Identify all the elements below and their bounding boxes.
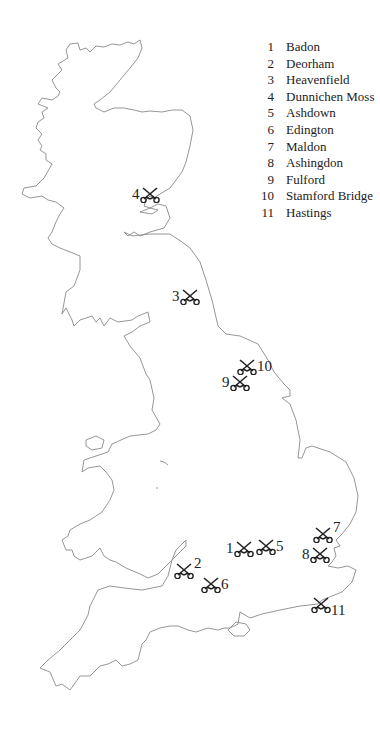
anglesey bbox=[86, 436, 104, 450]
legend-item: 2Deorham bbox=[252, 56, 374, 73]
legend-item: 4Dunnichen Moss bbox=[252, 89, 374, 106]
legend-item: 9Fulford bbox=[252, 172, 374, 189]
legend-item: 8Ashingdon bbox=[252, 155, 374, 172]
crossed-swords-icon bbox=[201, 577, 221, 593]
legend-item: 11Hastings bbox=[252, 205, 374, 222]
battle-marker-ashingdon: 8 bbox=[302, 546, 330, 563]
crossed-swords-icon bbox=[230, 375, 250, 391]
crossed-swords-icon bbox=[180, 289, 200, 305]
battle-marker-edington: 6 bbox=[201, 576, 229, 593]
legend-item: 3Heavenfield bbox=[252, 72, 374, 89]
crossed-swords-icon bbox=[174, 563, 194, 579]
isle-of-wight bbox=[228, 622, 250, 636]
battle-marker-maldon: 7 bbox=[313, 526, 341, 543]
crossed-swords-icon bbox=[140, 187, 160, 203]
crossed-swords-icon bbox=[310, 547, 330, 563]
battle-marker-dunnichen-moss: 4 bbox=[132, 186, 160, 203]
battle-marker-hastings: 11 bbox=[311, 596, 345, 613]
legend-item: 5Ashdown bbox=[252, 105, 374, 122]
legend-item: 7Maldon bbox=[252, 139, 374, 156]
legend-item: 6Edington bbox=[252, 122, 374, 139]
crossed-swords-icon bbox=[313, 527, 333, 543]
crossed-swords-icon bbox=[234, 541, 254, 557]
battle-marker-badon: 1 bbox=[226, 540, 254, 557]
crossed-swords-icon bbox=[256, 539, 276, 555]
battle-marker-stamford-bridge: 10 bbox=[237, 358, 272, 375]
battle-legend: 1Badon 2Deorham 3Heavenfield 4Dunnichen … bbox=[252, 39, 374, 222]
legend-item: 10Stamford Bridge bbox=[252, 188, 374, 205]
legend-item: 1Badon bbox=[252, 39, 374, 56]
battle-marker-heavenfield: 3 bbox=[172, 288, 200, 305]
battle-marker-deorham: 2 bbox=[174, 562, 202, 579]
battle-marker-ashdown: 5 bbox=[256, 538, 284, 555]
crossed-swords-icon bbox=[311, 597, 331, 613]
crossed-swords-icon bbox=[237, 359, 257, 375]
battle-marker-fulford: 9 bbox=[222, 374, 250, 391]
